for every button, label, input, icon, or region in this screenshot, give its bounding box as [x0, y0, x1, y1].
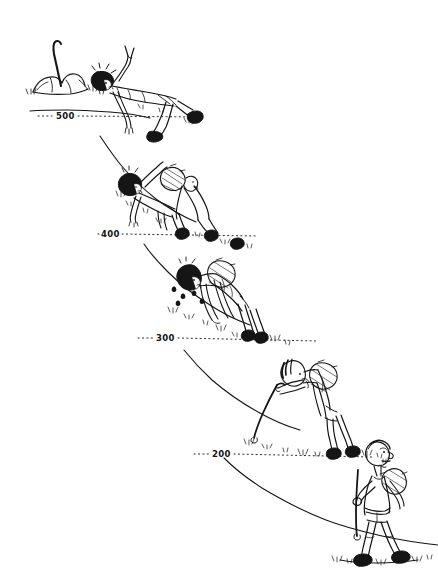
altitude-label-300: 300 — [156, 334, 175, 343]
mountain-climb-cartoon — [0, 0, 438, 572]
altitude-label-200: 200 — [212, 450, 231, 459]
altitude-label-500: 500 — [56, 112, 75, 121]
illustration-canvas: 500 400 300 200 — [0, 0, 438, 572]
altitude-label-400: 400 — [101, 230, 120, 239]
paper-background — [0, 0, 438, 572]
